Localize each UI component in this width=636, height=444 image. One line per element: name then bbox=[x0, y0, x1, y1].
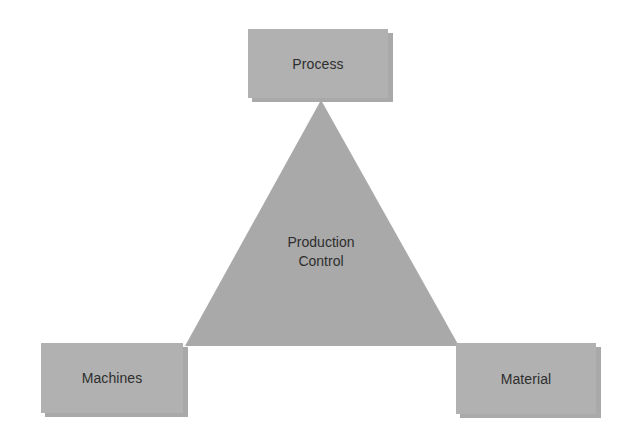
center-label-line2: Control bbox=[251, 252, 391, 271]
center-label: Production Control bbox=[251, 233, 391, 271]
node-material-label: Material bbox=[501, 371, 552, 387]
node-machines-label: Machines bbox=[82, 370, 143, 386]
node-machines: Machines bbox=[41, 343, 183, 413]
node-material: Material bbox=[456, 343, 596, 414]
node-process: Process bbox=[248, 29, 388, 98]
center-label-line1: Production bbox=[251, 233, 391, 252]
diagram-canvas: Production Control Process Machines Mate… bbox=[0, 0, 636, 444]
node-process-label: Process bbox=[292, 56, 343, 72]
